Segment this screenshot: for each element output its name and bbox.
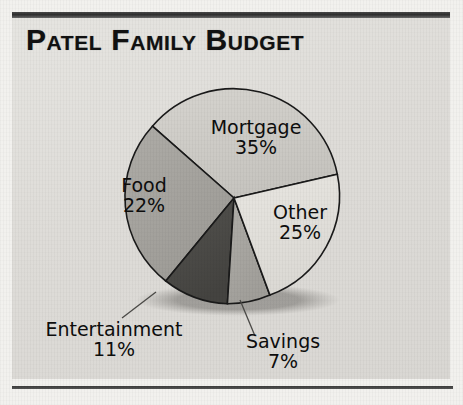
slice-label-other: Other 25% [250, 203, 350, 243]
slice-label-entertainment: Entertainment 11% [14, 320, 214, 360]
slice-name-entertainment: Entertainment [45, 318, 182, 340]
scanned-page: Patel Family Budget [0, 0, 463, 405]
slice-name-food: Food [121, 174, 167, 196]
slice-name-other: Other [273, 201, 327, 223]
slice-label-food: Food 22% [94, 176, 194, 216]
slice-label-mortgage: Mortgage 35% [196, 118, 316, 158]
slice-name-savings: Savings [246, 330, 320, 352]
slice-percent-other: 25% [250, 223, 350, 243]
slice-percent-savings: 7% [228, 352, 338, 372]
slice-percent-food: 22% [94, 196, 194, 216]
slice-label-savings: Savings 7% [228, 332, 338, 372]
slice-percent-mortgage: 35% [196, 138, 316, 158]
slice-name-mortgage: Mortgage [211, 116, 302, 138]
pie-chart: Mortgage 35% Other 25% Savings 7% Entert… [0, 0, 463, 405]
slice-percent-entertainment: 11% [14, 340, 214, 360]
